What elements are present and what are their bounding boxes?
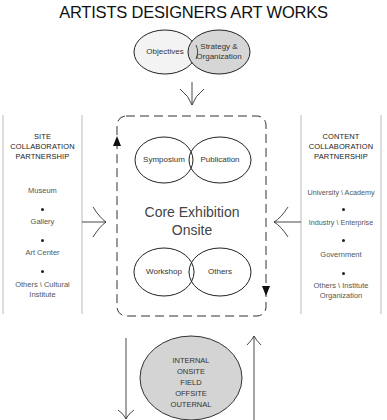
bottom-down-arrow-icon [118,338,134,419]
publication-label: Publication [190,155,250,165]
right-item-university: University \ Academy [299,188,383,198]
symposium-label: Symposium [135,155,193,165]
bullet-dot [41,239,44,242]
bullet-dot [41,208,44,211]
scope-internal: INTERNAL [140,355,242,366]
bullet-dot [342,272,345,275]
right-item-others-2: Organization [301,291,381,301]
left-item-others-2: Institute [3,290,82,300]
right-left-arrow-icon [274,207,301,237]
scope-onsite: ONSITE [140,366,242,377]
core-title-line-2: Onsite [117,221,267,239]
scope-list: INTERNAL ONSITE FIELD OFFSITE OUTERNAL [140,355,242,410]
others-label: Others [190,267,250,277]
left-panel-title-3: PARTNERSHIP [3,152,82,162]
scope-outernal: OUTERNAL [140,399,242,410]
core-title-line-1: Core Exhibition [117,203,267,221]
bullet-dot [342,239,345,242]
right-item-industry: Industry \ Enterprise [299,218,383,228]
objectives-label: Objectives [136,47,194,57]
bullet-dot [342,208,345,211]
scope-field: FIELD [140,377,242,388]
core-exhibition-title: Core Exhibition Onsite [117,203,267,239]
right-item-others-1: Others \ Institute [301,281,381,291]
workshop-label: Workshop [134,267,194,277]
strategy-label-2: Organization [190,52,248,62]
bullet-dot [41,270,44,273]
up-arrowhead-icon [113,136,121,146]
right-panel-title-1: CONTENT [301,132,381,142]
right-panel-title-3: PARTNERSHIP [301,152,381,162]
scope-offsite: OFFSITE [140,388,242,399]
right-item-government: Government [301,250,381,260]
left-panel-title-1: SITE [3,132,82,142]
left-item-museum: Museum [3,186,82,196]
down-arrowhead-icon [262,286,270,296]
left-item-others-1: Others \ Cultural [3,280,82,290]
left-item-art-center: Art Center [3,248,82,258]
top-down-arrow-icon [180,82,204,105]
right-panel-title-2: COLLABORATION [301,142,381,152]
strategy-label-1: Strategy & [190,42,248,52]
left-panel-title-2: COLLABORATION [3,142,82,152]
left-item-gallery: Gallery [3,217,82,227]
bottom-up-arrow-icon [247,336,261,420]
left-right-arrow-icon [82,207,106,237]
